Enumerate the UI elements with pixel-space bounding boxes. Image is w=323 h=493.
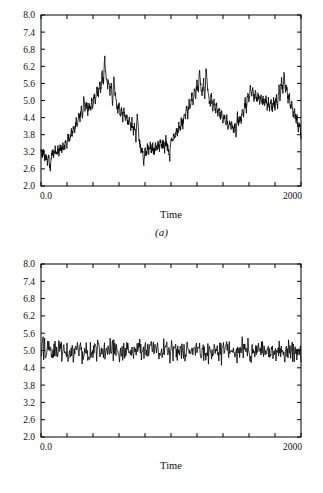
- x-axis-label: Time: [160, 460, 182, 471]
- plot-b: 2.02.63.23.84.45.05.66.26.87.48.00.02000…: [0, 250, 323, 493]
- x-tick-label: 2000: [283, 442, 302, 452]
- data-line: [41, 337, 301, 366]
- y-tick-label: 6.8: [23, 45, 35, 55]
- y-tick-label: 5.0: [23, 96, 35, 106]
- x-tick-label: 2000: [283, 191, 302, 201]
- y-tick-label: 2.6: [23, 415, 35, 425]
- panel-b: 2.02.63.23.84.45.05.66.26.87.48.00.02000…: [0, 250, 323, 493]
- y-tick-label: 3.8: [23, 381, 35, 391]
- panel-a-caption: (a): [0, 226, 323, 238]
- y-tick-label: 2.6: [23, 164, 35, 174]
- y-tick-label: 5.0: [23, 346, 35, 356]
- x-axis-label: Time: [160, 209, 182, 220]
- x-tick-label: 0.0: [40, 442, 52, 452]
- y-tick-label: 4.4: [23, 113, 35, 123]
- figure-two-panel-time-series: 2.02.63.23.84.45.05.66.26.87.48.00.02000…: [0, 0, 323, 493]
- plot-a: 2.02.63.23.84.45.05.66.26.87.48.00.02000…: [0, 0, 323, 250]
- data-line: [41, 56, 301, 171]
- y-tick-label: 3.8: [23, 130, 35, 140]
- panel-a: 2.02.63.23.84.45.05.66.26.87.48.00.02000…: [0, 0, 323, 250]
- y-tick-label: 6.2: [23, 62, 35, 72]
- y-tick-label: 8.0: [23, 259, 35, 269]
- y-tick-label: 5.6: [23, 329, 35, 339]
- y-tick-label: 3.2: [23, 398, 35, 408]
- y-tick-label: 7.4: [23, 277, 35, 287]
- y-tick-label: 2.0: [23, 432, 35, 442]
- y-tick-label: 6.8: [23, 294, 35, 304]
- y-tick-label: 6.2: [23, 311, 35, 321]
- y-tick-label: 5.6: [23, 79, 35, 89]
- y-tick-label: 2.0: [23, 181, 35, 191]
- y-tick-label: 8.0: [23, 10, 35, 20]
- y-tick-label: 4.4: [23, 363, 35, 373]
- y-tick-label: 7.4: [23, 28, 35, 38]
- y-tick-label: 3.2: [23, 147, 35, 157]
- x-tick-label: 0.0: [40, 191, 52, 201]
